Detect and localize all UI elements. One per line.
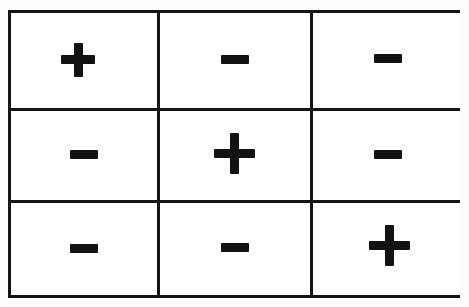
- plus-vertical-bar: [385, 225, 394, 266]
- minus-icon: [221, 55, 249, 64]
- sign-matrix-grid: [8, 10, 460, 298]
- grid-cell-r1c3[interactable]: [313, 13, 460, 111]
- grid-cell-r3c2[interactable]: [160, 203, 313, 295]
- grid-cell-r2c2[interactable]: [160, 111, 313, 203]
- minus-icon: [70, 244, 98, 253]
- minus-icon: [374, 54, 402, 63]
- grid-cell-r3c1[interactable]: [11, 203, 160, 295]
- plus-vertical-bar: [230, 133, 239, 174]
- grid-cell-r2c1[interactable]: [11, 111, 160, 203]
- plus-icon: [214, 133, 255, 174]
- grid-cell-r1c1[interactable]: [11, 13, 160, 111]
- grid-cell-r2c3[interactable]: [313, 111, 460, 203]
- minus-icon: [374, 150, 402, 159]
- minus-icon: [221, 243, 249, 252]
- plus-icon: [61, 43, 95, 77]
- plus-vertical-bar: [74, 43, 83, 77]
- grid-cell-r1c2[interactable]: [160, 13, 313, 111]
- grid-cell-r3c3[interactable]: [313, 203, 460, 295]
- minus-icon: [70, 150, 98, 159]
- plus-icon: [369, 225, 410, 266]
